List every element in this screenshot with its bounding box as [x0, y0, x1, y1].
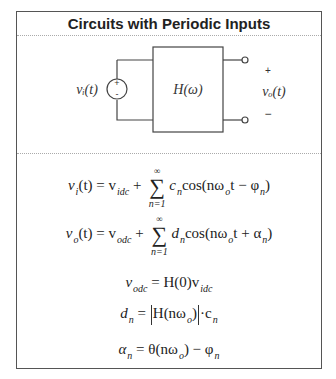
equation-input-series: vi(t) = vidc + ∞∑n=1cncos(nωot − φn) [17, 176, 321, 198]
source-bottom-wire [117, 100, 153, 120]
formula-card: Circuits with Periodic Inputs + - vᵢ(t) … [16, 11, 322, 369]
equation-output-series: vo(t) = vodc + ∞∑n=1dncos(nωot + αn) [17, 224, 321, 246]
output-label: vₒ(t) [262, 84, 286, 100]
equation-dc-relation: vodc = H(0)vidc [17, 274, 321, 291]
output-minus-sign: − [264, 107, 271, 121]
output-plus-sign: + [265, 65, 271, 76]
output-terminal-top-icon [242, 57, 248, 63]
source-label: vᵢ(t) [76, 82, 98, 98]
source-plus-sign: + [114, 78, 119, 88]
circuit-diagram: + - vᵢ(t) H(ω) vₒ(t) + − [17, 12, 323, 154]
summation-symbol: ∞∑n=1 [148, 176, 166, 198]
equation-magnitude-relation: dn = H(nωo)·cn [17, 305, 321, 325]
system-label: H(ω) [172, 82, 203, 98]
output-terminal-bottom-icon [242, 117, 248, 123]
source-minus-sign: - [116, 89, 119, 99]
equation-phase-relation: αn = θ(nωo) − φn [17, 341, 321, 358]
summation-symbol: ∞∑n=1 [150, 224, 168, 246]
diagram-divider [17, 153, 321, 154]
